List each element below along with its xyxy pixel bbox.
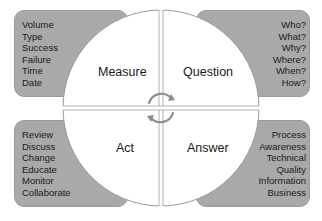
list-item: When? xyxy=(273,65,306,77)
list-item: Business xyxy=(258,187,306,199)
question-items-list: Who? What? Why? Where? When? How? xyxy=(273,19,306,88)
list-item: What? xyxy=(273,31,306,43)
list-item: Time xyxy=(22,65,58,77)
list-item: Type xyxy=(22,31,58,43)
list-item: How? xyxy=(273,77,306,89)
list-item: Why? xyxy=(273,42,306,54)
list-item: Date xyxy=(22,77,58,89)
list-item: Failure xyxy=(22,54,58,66)
list-item: Discuss xyxy=(22,141,71,153)
act-items-list: Review Discuss Change Educate Monitor Co… xyxy=(22,129,71,198)
list-item: Where? xyxy=(273,54,306,66)
list-item: Change xyxy=(22,152,71,164)
list-item: Information xyxy=(258,175,306,187)
list-item: Quality xyxy=(258,164,306,176)
list-item: Volume xyxy=(22,19,58,31)
quadrant-label-answer: Answer xyxy=(187,141,229,155)
list-item: Educate xyxy=(22,164,71,176)
quadrant-label-question: Question xyxy=(183,65,233,79)
list-item: Collaborate xyxy=(22,187,71,199)
list-item: Awareness xyxy=(258,141,306,153)
answer-items-list: Process Awareness Technical Quality Info… xyxy=(258,129,306,198)
list-item: Monitor xyxy=(22,175,71,187)
list-item: Success xyxy=(22,42,58,54)
list-item: Technical xyxy=(258,152,306,164)
list-item: Who? xyxy=(273,19,306,31)
quadrant-label-measure: Measure xyxy=(98,65,147,79)
measure-items-list: Volume Type Success Failure Time Date xyxy=(22,19,58,88)
quadrant-label-act: Act xyxy=(116,141,134,155)
list-item: Process xyxy=(258,129,306,141)
list-item: Review xyxy=(22,129,71,141)
